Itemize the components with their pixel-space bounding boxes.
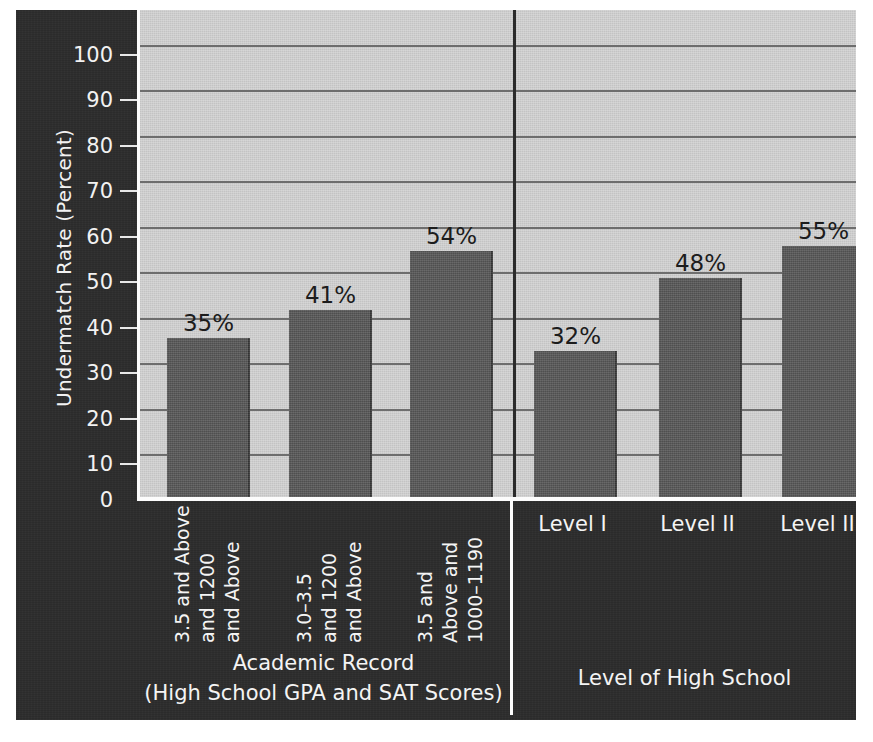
y-tick-label: 80: [86, 135, 113, 157]
bar-hslevel-3: [782, 246, 856, 497]
bar-hslevel-2: [659, 278, 742, 497]
y-tick-label: 30: [86, 362, 113, 384]
y-tick-mark: [120, 463, 137, 465]
y-tick-label: 40: [86, 317, 113, 339]
y-tick-50: 50: [86, 271, 137, 293]
bar-hslevel-1: [534, 351, 617, 497]
y-tick-70: 70: [86, 180, 137, 202]
y-tick-mark: [120, 54, 137, 56]
y-tick-mark: [120, 327, 137, 329]
group-title-academic: Academic Record (High School GPA and SAT…: [137, 648, 510, 708]
bar-value-hslevel-1: 32%: [534, 323, 617, 349]
y-tick-mark: [120, 190, 137, 192]
y-tick-label: 60: [86, 226, 113, 248]
x-category-hslevel-3: Level III: [779, 512, 856, 536]
y-tick-mark: [120, 145, 137, 147]
group-title-hslevel: Level of High School: [513, 663, 856, 693]
y-tick-mark: [120, 418, 137, 420]
group-divider: [513, 10, 516, 497]
bar-value-academic-1: 35%: [167, 310, 250, 336]
y-tick-label: 50: [86, 271, 113, 293]
y-axis-title: Undermatch Rate (Percent): [52, 38, 76, 498]
y-tick-label: 90: [86, 89, 113, 111]
gridline-90: [140, 90, 856, 92]
y-tick-20: 20: [86, 408, 137, 430]
y-tick-10: 10: [86, 453, 137, 475]
x-category-academic-1: 3.5 and Above and 1200 and Above: [170, 505, 245, 643]
gridline-60: [140, 227, 856, 229]
y-tick-100: 100: [73, 44, 137, 66]
y-tick-40: 40: [86, 317, 137, 339]
y-tick-mark: [120, 236, 137, 238]
y-tick-80: 80: [86, 135, 137, 157]
bar-value-hslevel-2: 48%: [659, 250, 742, 276]
y-tick-30: 30: [86, 362, 137, 384]
x-category-hslevel-1: Level I: [531, 512, 614, 536]
gridline-80: [140, 136, 856, 138]
y-axis: 100 90 80 70 60 50 40 30 20 10 0: [16, 10, 137, 720]
group-divider-lower: [510, 501, 513, 715]
y-tick-0: 0: [100, 489, 137, 511]
plot-area: 35% 41% 54% 32% 48% 55%: [137, 10, 856, 501]
gridline-100: [140, 45, 856, 47]
bar-value-hslevel-3: 55%: [782, 218, 856, 244]
chart-figure: 100 90 80 70 60 50 40 30 20 10 0: [16, 10, 856, 720]
y-tick-label: 70: [86, 180, 113, 202]
bar-academic-3: [410, 251, 493, 497]
y-tick-60: 60: [86, 226, 137, 248]
x-category-academic-3: 3.5 and Above and 1000–1190: [413, 537, 488, 643]
gridline-50: [140, 272, 856, 274]
bar-academic-1: [167, 338, 250, 497]
x-category-hslevel-2: Level II: [656, 512, 739, 536]
gridline-70: [140, 181, 856, 183]
bar-value-academic-3: 54%: [410, 223, 493, 249]
y-tick-label: 100: [73, 44, 113, 66]
y-tick-90: 90: [86, 89, 137, 111]
y-tick-mark: [120, 281, 137, 283]
y-tick-label: 10: [86, 453, 113, 475]
x-category-academic-2: 3.0–3.5 and 1200 and Above: [292, 542, 367, 643]
y-tick-label: 20: [86, 408, 113, 430]
y-tick-mark: [120, 99, 137, 101]
bar-academic-2: [289, 310, 372, 497]
bar-value-academic-2: 41%: [289, 282, 372, 308]
y-tick-label: 0: [100, 489, 113, 511]
y-tick-mark: [120, 372, 137, 374]
